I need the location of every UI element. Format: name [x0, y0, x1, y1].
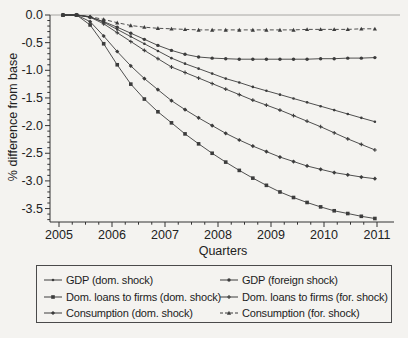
line-chart: 0.0-0.5-1.0-1.5-2.0-2.5-3.0-3.5200520062…: [0, 0, 408, 262]
y-tick-label: -3.0: [21, 174, 43, 188]
legend-label-loans-foreign: Dom. loans to firms (for. shock): [242, 291, 388, 303]
x-axis: 2005200620072008200920102011: [45, 222, 394, 242]
y-tick-label: -1.0: [21, 63, 43, 77]
y-tick-label: -0.5: [21, 36, 43, 50]
legend-item-gdp-foreign: GDP (foreign shock): [219, 272, 391, 289]
series-consumption-dom-shock: [61, 13, 377, 181]
legend-marker-consumption-dom-icon: [43, 308, 63, 318]
y-tick-label: -2.0: [21, 119, 43, 133]
legend-label-gdp-foreign: GDP (foreign shock): [242, 274, 338, 286]
legend-marker-loans-foreign-icon: [219, 292, 239, 302]
legend-marker-loans-dom-icon: [43, 292, 63, 302]
y-axis: 0.0-0.5-1.0-1.5-2.0-2.5-3.0-3.5: [21, 8, 50, 222]
legend-marker-consumption-foreign-icon: [219, 308, 239, 318]
legend-label-consumption-foreign: Consumption (for. shock): [242, 307, 359, 319]
y-axis-label: % difference from base: [6, 53, 20, 181]
x-tick-label: 2005: [45, 228, 73, 242]
figure-page: 0.0-0.5-1.0-1.5-2.0-2.5-3.0-3.5200520062…: [0, 0, 408, 338]
x-axis-label: Quarters: [199, 244, 248, 258]
y-tick-label: 0.0: [26, 8, 43, 22]
y-tick-label: -2.5: [21, 146, 43, 160]
legend-label-gdp-dom: GDP (dom. shock): [66, 274, 153, 286]
legend-item-gdp-dom: GDP (dom. shock): [43, 272, 219, 289]
legend-marker-gdp-dom-icon: [43, 275, 63, 285]
legend-box: GDP (dom. shock) Dom. loans to firms (do…: [36, 265, 392, 323]
x-tick-label: 2006: [98, 228, 126, 242]
legend-item-loans-foreign: Dom. loans to firms (for. shock): [219, 289, 391, 306]
x-tick-label: 2007: [151, 228, 179, 242]
legend-column-foreign: GDP (foreign shock) Dom. loans to firms …: [219, 272, 391, 322]
legend-item-loans-dom: Dom. loans to firms (dom. shock): [43, 289, 219, 306]
series-consumption-for-shock: [61, 13, 377, 32]
legend-label-consumption-dom: Consumption (dom. shock): [66, 307, 193, 319]
legend-item-consumption-dom: Consumption (dom. shock): [43, 305, 219, 322]
series-dom-loans-to-firms-for-shock: [61, 13, 377, 152]
legend-label-loans-dom: Dom. loans to firms (dom. shock): [66, 291, 221, 303]
x-tick-label: 2009: [257, 228, 285, 242]
legend-item-consumption-foreign: Consumption (for. shock): [219, 305, 391, 322]
x-tick-label: 2008: [204, 228, 232, 242]
legend-marker-gdp-foreign-icon: [219, 275, 239, 285]
y-tick-label: -1.5: [21, 91, 43, 105]
series-dom-loans-to-firms-dom-shock: [61, 13, 376, 220]
x-tick-label: 2011: [364, 228, 391, 242]
y-tick-label: -3.5: [21, 202, 43, 216]
x-tick-label: 2010: [310, 228, 338, 242]
legend-column-domestic: GDP (dom. shock) Dom. loans to firms (do…: [43, 272, 219, 322]
